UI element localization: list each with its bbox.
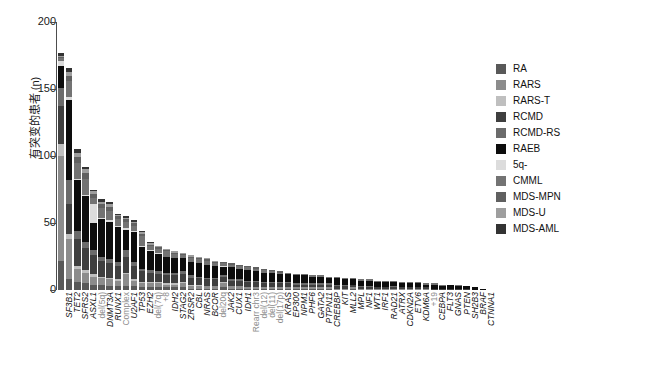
bar-segment <box>90 277 96 285</box>
bar-braf[interactable] <box>472 287 478 290</box>
bar-kdm6a[interactable] <box>415 282 421 290</box>
bar-jak2[interactable] <box>220 262 226 290</box>
bar-idh2[interactable] <box>163 248 169 290</box>
bar-segment <box>58 261 64 290</box>
bar--19[interactable] <box>423 283 429 290</box>
legend-item-rcmd-rs[interactable]: RCMD-RS <box>496 125 646 141</box>
legend-swatch <box>496 144 506 154</box>
legend-label: RAEB <box>513 144 540 154</box>
legend-item-mds-mpn[interactable]: MDS-MPN <box>496 189 646 205</box>
bar-segment <box>82 179 88 195</box>
bar-u2af1[interactable] <box>123 216 129 290</box>
legend-item-ra[interactable]: RA <box>496 61 646 77</box>
bar-kit[interactable] <box>334 277 340 290</box>
bar-segment <box>334 278 340 285</box>
bar-rearr-chr3[interactable] <box>244 266 250 290</box>
legend-item-rars-t[interactable]: RARS-T <box>496 93 646 109</box>
bar-segment <box>82 248 88 269</box>
bar-rad21[interactable] <box>382 281 388 290</box>
bar-mpl[interactable] <box>350 278 356 290</box>
bar-segment <box>220 267 226 275</box>
bar-segment <box>212 289 218 290</box>
bar-segment <box>285 274 291 282</box>
bar-irf1[interactable] <box>374 281 380 290</box>
legend-item-mds-aml[interactable]: MDS-AML <box>496 221 646 237</box>
legend-label: RCMD-RS <box>513 128 560 138</box>
bar-asxl1[interactable] <box>82 167 88 290</box>
bar-segment <box>261 289 267 290</box>
bar-gnas[interactable] <box>447 285 453 290</box>
bar-nras[interactable] <box>196 257 202 291</box>
bar-del20q[interactable] <box>212 261 218 290</box>
bar-segment <box>139 287 145 290</box>
bar-dnmt3a[interactable] <box>98 199 104 290</box>
bar-cebpa[interactable] <box>431 283 437 290</box>
legend-swatch <box>496 96 506 106</box>
bar-kras[interactable] <box>277 271 283 290</box>
bar-del-7q-[interactable] <box>147 242 153 290</box>
legend-item-raeb[interactable]: RAEB <box>496 141 646 157</box>
bar-cux1[interactable] <box>228 263 234 290</box>
bar-sf3b1[interactable] <box>58 53 64 290</box>
bar-tp53[interactable] <box>131 220 137 290</box>
bar-segment <box>58 106 64 144</box>
bar-mll2[interactable] <box>342 278 348 290</box>
bar-npm1[interactable] <box>293 274 299 290</box>
legend-label: CMML <box>513 176 542 186</box>
legend-item-5q-[interactable]: 5q- <box>496 157 646 173</box>
bar-phf6[interactable] <box>301 274 307 290</box>
y-tick-mark <box>50 22 56 23</box>
bar-wt1[interactable] <box>366 279 372 290</box>
bar-stag2[interactable] <box>171 251 177 290</box>
legend-item-rcmd[interactable]: RCMD <box>496 109 646 125</box>
bar-segment <box>123 250 129 257</box>
legend-item-mds-u[interactable]: MDS-U <box>496 205 646 221</box>
bar-segment <box>180 287 186 290</box>
bar-tet2[interactable] <box>66 68 72 290</box>
bar-segment <box>98 285 104 290</box>
bar-runx1[interactable] <box>106 202 112 290</box>
bar-ezh2[interactable] <box>139 231 145 290</box>
bar-sfrs2[interactable] <box>74 149 80 290</box>
bar--8[interactable] <box>155 246 161 290</box>
bar-del-11-[interactable] <box>261 269 267 290</box>
legend-item-cmml[interactable]: CMML <box>496 173 646 189</box>
legend-item-rars[interactable]: RARS <box>496 77 646 93</box>
bar-ptpn11[interactable] <box>317 275 323 290</box>
bar-segment <box>374 289 380 290</box>
bar-flt3[interactable] <box>439 285 445 290</box>
bar-segment <box>147 251 153 270</box>
bar-ep300[interactable] <box>285 273 291 290</box>
bar-segment <box>390 289 396 290</box>
bar-bcor[interactable] <box>204 258 210 290</box>
bar-del-17p-[interactable] <box>269 270 275 290</box>
bar-del-12-[interactable] <box>253 267 259 290</box>
bar-cdkn2a[interactable] <box>399 282 405 290</box>
bar-segment <box>228 267 234 279</box>
bar-crebbp[interactable] <box>326 277 332 290</box>
bar-pten[interactable] <box>455 285 461 290</box>
bar-gata2[interactable] <box>309 275 315 290</box>
bar-segment <box>171 275 177 283</box>
bar-segment <box>163 257 169 273</box>
bar-segment <box>106 286 112 290</box>
bar-segment <box>196 278 202 285</box>
bar-segment <box>139 236 145 245</box>
bar-segment <box>155 254 161 271</box>
bar-segment <box>277 289 283 290</box>
bar-cbl[interactable] <box>188 255 194 290</box>
bar-segment <box>90 204 96 223</box>
bar-etv6[interactable] <box>407 282 413 290</box>
bar-atrx[interactable] <box>390 281 396 290</box>
bar-segment <box>66 100 72 180</box>
bar-segment <box>244 289 250 290</box>
bar-idh1[interactable] <box>236 265 242 290</box>
bar-ctnna1[interactable] <box>480 289 486 290</box>
legend-label: MDS-U <box>513 208 546 218</box>
bar-sh2b3[interactable] <box>463 286 469 290</box>
bar-complex[interactable] <box>115 214 121 290</box>
bar-segment <box>123 274 129 286</box>
bar-del-5q-[interactable] <box>90 190 96 291</box>
bar-zrsr2[interactable] <box>180 252 186 290</box>
bar-nf1[interactable] <box>358 279 364 290</box>
